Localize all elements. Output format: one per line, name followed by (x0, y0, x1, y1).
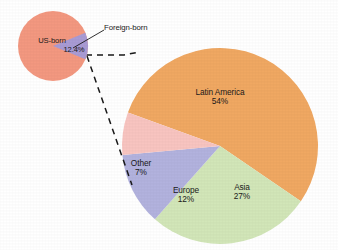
pie-label-europe-percent: 12% (164, 195, 208, 204)
pie-chart-figure: US-born 12.4% Foreign-born Latin America… (0, 0, 338, 250)
callout-label-foreign-born: Foreign-born (104, 24, 174, 33)
pie-label-asia-percent: 27% (222, 192, 262, 201)
small-pie-label-foreign-born-percent: 12.4% (56, 46, 92, 55)
pie-label-other-percent: 7% (122, 168, 160, 177)
pie-label-latin-america-percent: 54% (182, 97, 258, 106)
